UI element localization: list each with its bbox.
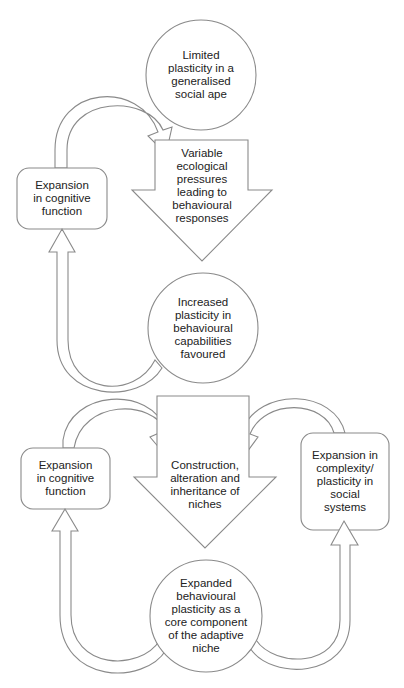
box-cognitive-top-label: Expansion in cognitive function bbox=[17, 168, 107, 229]
box-social-text: Expansion in complexity/ plasticity in s… bbox=[312, 449, 378, 514]
node-outcome-text: Increased plasticity in behavioural capa… bbox=[173, 296, 232, 361]
node-core-label: Expanded behavioural plasticity as a cor… bbox=[151, 564, 261, 668]
niche-arrow-label: Construction, alteration and inheritance… bbox=[150, 455, 260, 515]
pressure-arrow-text: Variable ecological pressures leading to… bbox=[172, 147, 231, 225]
pressure-arrow-label: Variable ecological pressures leading to… bbox=[152, 145, 252, 227]
node-start-text: Limited plasticity in a generalised soci… bbox=[168, 49, 234, 101]
node-start-label: Limited plasticity in a generalised soci… bbox=[151, 25, 251, 125]
box-cognitive-bottom-text: Expansion in cognitive function bbox=[37, 459, 95, 498]
box-cognitive-top-text: Expansion in cognitive function bbox=[33, 179, 91, 218]
u-arrow-top bbox=[49, 229, 162, 392]
box-cognitive-bottom-label: Expansion in cognitive function bbox=[21, 448, 110, 509]
box-social-label: Expansion in complexity/ plasticity in s… bbox=[301, 433, 389, 530]
niche-arrow-text: Construction, alteration and inheritance… bbox=[170, 459, 240, 511]
u-arrow-bottom-left bbox=[52, 509, 166, 673]
node-outcome-label: Increased plasticity in behavioural capa… bbox=[153, 278, 253, 378]
node-core-text: Expanded behavioural plasticity as a cor… bbox=[165, 577, 247, 655]
u-arrow-bottom-right bbox=[250, 521, 358, 669]
